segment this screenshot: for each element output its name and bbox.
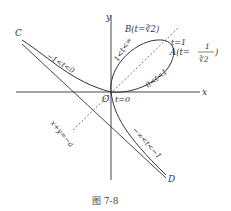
asymptote-label: x+y=−a: [48, 119, 75, 149]
loop-lower-label: 0<t<1: [144, 67, 169, 90]
point-d-label: D: [167, 174, 175, 184]
point-a-frac-den: ∛2: [199, 54, 209, 64]
point-a-frac-num: 1: [205, 42, 210, 51]
folium-diagram: y x O B(t=∛2) A(t= 1 ∛2 ) C D t=1 t=0 −1…: [0, 0, 231, 211]
point-b-label: B(t=∛2): [124, 24, 159, 34]
point-a-label: A(t=: [169, 47, 190, 57]
figure-caption: 图 7-8: [92, 196, 119, 206]
point-c-label: C: [15, 28, 22, 38]
asymptote-line: [22, 44, 166, 178]
origin-label: O: [102, 94, 110, 104]
t0-label: t=0: [115, 95, 130, 104]
branch-upper-left-label: −1<t<0: [45, 51, 77, 75]
t1-label: t=1: [171, 38, 186, 47]
point-a-close: ): [214, 47, 218, 57]
x-axis-label: x: [202, 87, 207, 97]
y-axis-label: y: [105, 12, 112, 22]
